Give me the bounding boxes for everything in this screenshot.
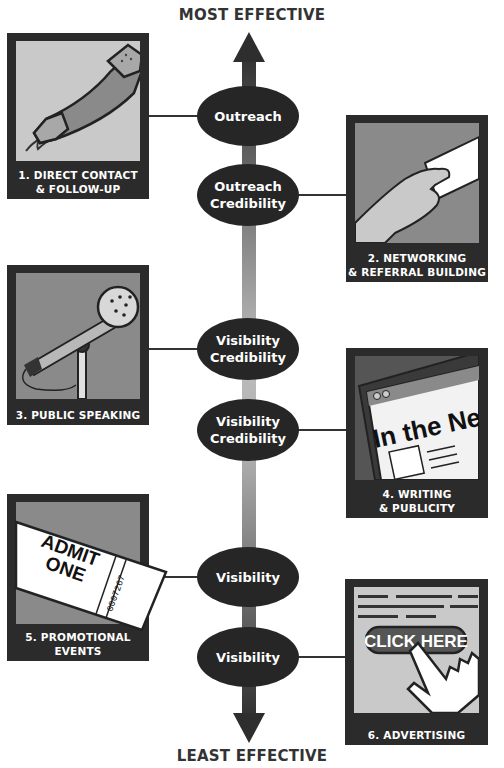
caption-line: EVENTS <box>7 644 149 658</box>
caption-line: 3. PUBLIC SPEAKING <box>7 408 149 422</box>
panel-caption: 6. ADVERTISING <box>345 728 488 742</box>
ellipse-label-visibility: Visibility <box>196 569 300 586</box>
ellipse-text: Visibility <box>196 649 300 666</box>
caption-line: & PUBLICITY <box>346 501 488 515</box>
microphone-icon <box>16 273 140 399</box>
ellipse-text: Credibility <box>196 195 300 212</box>
ellipse-text: Credibility <box>196 430 300 447</box>
ellipse-label-visibility-credibility: Visibility Credibility <box>196 332 300 366</box>
caption-line: 1. DIRECT CONTACT <box>7 168 149 182</box>
hand-with-card-icon <box>355 123 479 243</box>
ellipse-label-visibility: Visibility <box>196 649 300 666</box>
panel-caption: 1. DIRECT CONTACT & FOLLOW-UP <box>7 168 149 196</box>
panel-public-speaking: 3. PUBLIC SPEAKING <box>7 265 149 425</box>
caption-line: 6. ADVERTISING <box>345 728 488 742</box>
ellipse-text: Visibility <box>196 569 300 586</box>
caption-line: 5. PROMOTIONAL <box>7 630 149 644</box>
caption-line: & REFERRAL BUILDING <box>346 265 488 279</box>
caption-line: 4. WRITING <box>346 487 488 501</box>
click-here-ad-icon: CLICK HERE <box>354 587 479 713</box>
ellipse-label-visibility-credibility: Visibility Credibility <box>196 413 300 447</box>
ellipse-label-outreach-credibility: Outreach Credibility <box>196 178 300 212</box>
ticket-icon: ADMIT ONE 0007267 <box>16 502 140 624</box>
arrow-down-icon <box>233 713 265 743</box>
ellipse-text: Visibility <box>196 413 300 430</box>
news-tablet-icon: In the News <box>355 356 479 480</box>
panel-writing-publicity: In the News 4. WRITING & PUBLICITY <box>346 348 488 518</box>
panel-caption: 5. PROMOTIONAL EVENTS <box>7 630 149 658</box>
ellipse-text: Outreach <box>196 108 300 125</box>
panel-promotional-events: ADMIT ONE 0007267 5. PROMOTIONAL EVENTS <box>7 494 149 661</box>
panel-networking: 2. NETWORKING & REFERRAL BUILDING <box>346 115 488 282</box>
panel-caption: 4. WRITING & PUBLICITY <box>346 487 488 515</box>
ellipse-text: Visibility <box>196 332 300 349</box>
caption-line: 2. NETWORKING <box>346 251 488 265</box>
ellipse-text: Outreach <box>196 178 300 195</box>
caption-line: & FOLLOW-UP <box>7 182 149 196</box>
panel-caption: 2. NETWORKING & REFERRAL BUILDING <box>346 251 488 279</box>
panel-direct-contact: 1. DIRECT CONTACT & FOLLOW-UP <box>7 33 149 199</box>
arrow-up-icon <box>233 32 265 62</box>
panel-caption: 3. PUBLIC SPEAKING <box>7 408 149 422</box>
panel-advertising: CLICK HERE 6. ADVERTISING <box>345 579 488 745</box>
ellipse-text: Credibility <box>196 349 300 366</box>
axis-shaft <box>242 58 256 714</box>
least-effective-label: LEAST EFFECTIVE <box>0 747 504 765</box>
ellipse-label-outreach: Outreach <box>196 108 300 125</box>
telephone-icon <box>16 41 140 161</box>
